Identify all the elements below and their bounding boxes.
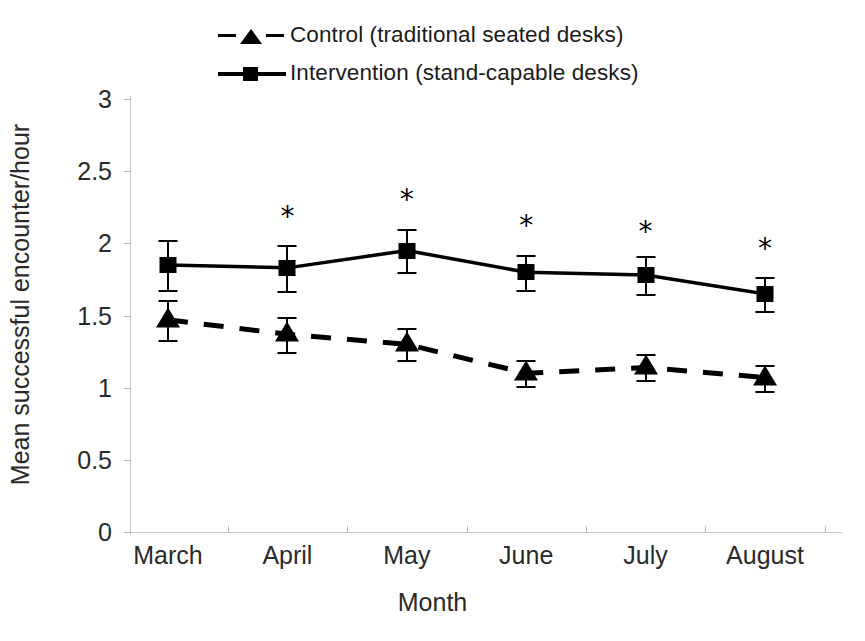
error-bar-cap bbox=[397, 272, 416, 274]
error-bar-cap bbox=[756, 277, 775, 279]
data-point-marker-square bbox=[279, 260, 296, 276]
data-point-marker-square bbox=[398, 243, 415, 259]
error-bar-cap bbox=[159, 300, 178, 302]
data-point-marker-triangle bbox=[514, 361, 538, 381]
series-line bbox=[168, 251, 765, 294]
y-axis-title: Mean successful encounter/hour bbox=[6, 75, 35, 535]
significance-asterisk: * bbox=[400, 186, 414, 214]
error-bar-cap bbox=[278, 317, 297, 319]
data-point-marker-square bbox=[518, 264, 535, 280]
error-bar-cap bbox=[397, 229, 416, 231]
error-bar-cap bbox=[517, 386, 536, 388]
data-point-marker-triangle bbox=[753, 365, 777, 385]
error-bar-cap bbox=[636, 294, 655, 296]
error-bar-cap bbox=[756, 311, 775, 313]
error-bar-cap bbox=[636, 256, 655, 258]
error-bar-cap bbox=[278, 291, 297, 293]
error-bar-cap bbox=[517, 290, 536, 292]
significance-asterisk: * bbox=[758, 235, 772, 263]
series-line bbox=[168, 320, 765, 378]
error-bar-cap bbox=[278, 245, 297, 247]
error-bar-cap bbox=[636, 380, 655, 382]
significance-asterisk: * bbox=[280, 203, 294, 231]
chart-figure: Control (traditional seated desks) Inter… bbox=[0, 0, 865, 641]
data-point-marker-square bbox=[160, 257, 177, 273]
error-bar-cap bbox=[159, 340, 178, 342]
significance-asterisk: * bbox=[519, 212, 533, 240]
error-bar-cap bbox=[278, 352, 297, 354]
series-lines-layer bbox=[0, 0, 865, 641]
error-bar-cap bbox=[517, 255, 536, 257]
error-bar-cap bbox=[397, 328, 416, 330]
data-point-marker-square bbox=[637, 267, 654, 283]
data-point-marker-triangle bbox=[275, 322, 299, 342]
data-point-marker-square bbox=[757, 286, 774, 302]
error-bar-cap bbox=[159, 240, 178, 242]
data-point-marker-triangle bbox=[395, 332, 419, 352]
error-bar-cap bbox=[397, 360, 416, 362]
error-bar-cap bbox=[756, 391, 775, 393]
data-point-marker-triangle bbox=[156, 307, 180, 327]
error-bar-cap bbox=[159, 290, 178, 292]
data-point-marker-triangle bbox=[634, 355, 658, 375]
x-axis-title: Month bbox=[0, 588, 865, 617]
significance-asterisk: * bbox=[639, 218, 653, 246]
